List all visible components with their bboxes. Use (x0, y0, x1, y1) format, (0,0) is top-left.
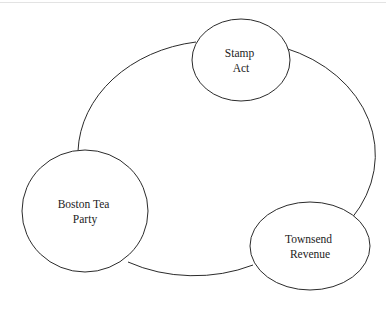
node-townsend-revenue[interactable]: Townsend Revenue (250, 202, 370, 290)
cycle-diagram: Stamp Act Boston Tea Party Townsend Reve… (0, 0, 386, 310)
arc-boston-to-stamp (78, 42, 196, 151)
node-boston-tea-party[interactable]: Boston Tea Party (22, 150, 148, 272)
node-townsend-revenue-label-line-2: Revenue (290, 248, 330, 260)
node-townsend-revenue-shape (250, 202, 370, 290)
node-boston-tea-party-shape (22, 150, 148, 272)
node-stamp-act-label-line-2: Act (233, 62, 250, 74)
node-boston-tea-party-label-line-2: Party (73, 213, 98, 226)
arc-stamp-to-townsend (285, 48, 375, 218)
node-stamp-act-shape (192, 19, 290, 101)
node-stamp-act[interactable]: Stamp Act (192, 19, 290, 101)
node-boston-tea-party-label-line-1: Boston Tea (58, 198, 110, 210)
diagram-canvas: Stamp Act Boston Tea Party Townsend Reve… (0, 0, 386, 310)
node-townsend-revenue-label-line-1: Townsend (285, 233, 332, 245)
node-stamp-act-label-line-1: Stamp (225, 47, 255, 60)
arc-townsend-to-boston (128, 262, 253, 276)
